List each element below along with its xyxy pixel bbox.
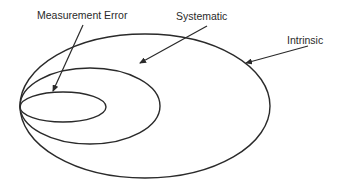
- ellipses-diagram: [0, 0, 341, 186]
- diagram-canvas: Measurement Error Systematic Intrinsic: [0, 0, 341, 186]
- systematic-arrow: [140, 26, 207, 63]
- systematic-label: Systematic: [176, 10, 227, 22]
- measurement-error-label: Measurement Error: [37, 9, 127, 21]
- measurement-error-arrow: [53, 25, 83, 91]
- measurement-error-ellipse: [20, 92, 106, 122]
- systematic-ellipse: [20, 68, 160, 144]
- intrinsic-ellipse: [20, 34, 270, 178]
- intrinsic-label: Intrinsic: [287, 34, 323, 46]
- intrinsic-arrow: [246, 46, 308, 63]
